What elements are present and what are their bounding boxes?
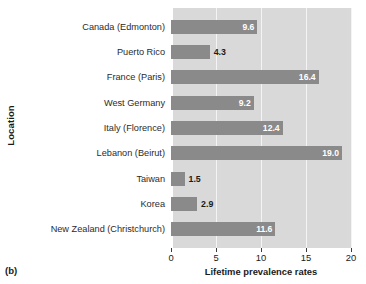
gridline (351, 8, 352, 248)
bar-value-label: 16.4 (299, 72, 319, 82)
category-label: Canada (Edmonton) (18, 14, 170, 39)
bar-value-label: 11.6 (256, 224, 275, 234)
bar-chart-figure: Location Canada (Edmonton)Puerto RicoFra… (0, 0, 366, 284)
bar-row: 1.5 (171, 166, 351, 191)
x-tick-label: 20 (346, 252, 356, 263)
x-tick-label: 5 (213, 252, 218, 263)
category-label: New Zealand (Christchurch) (18, 217, 170, 242)
y-axis-title-text: Location (5, 105, 16, 145)
y-axis-title: Location (0, 0, 20, 250)
category-label: France (Paris) (18, 65, 170, 90)
bar-row: 16.4 (171, 65, 351, 90)
x-axis-title: Lifetime prevalence rates (171, 266, 351, 277)
category-label: Korea (18, 191, 170, 216)
bar-value-label: 9.2 (239, 98, 254, 108)
bar: 12.4 (171, 121, 283, 135)
bar-row: 4.3 (171, 39, 351, 64)
bar-row: 2.9 (171, 191, 351, 216)
bar-value-label: 1.5 (189, 174, 201, 184)
bar (171, 45, 210, 59)
bar-value-label: 12.4 (263, 123, 283, 133)
category-label: West Germany (18, 90, 170, 115)
bar-row: 9.6 (171, 14, 351, 39)
category-label: Lebanon (Beirut) (18, 141, 170, 166)
bar-row: 9.2 (171, 90, 351, 115)
bar (171, 197, 197, 211)
bar-value-label: 2.9 (201, 199, 213, 209)
x-axis: 05101520 (171, 248, 351, 264)
x-tick-label: 10 (256, 252, 266, 263)
bar: 16.4 (171, 70, 319, 84)
category-axis-labels: Canada (Edmonton)Puerto RicoFrance (Pari… (18, 14, 170, 242)
bar-value-label: 19.0 (322, 148, 342, 158)
panel-label: (b) (5, 265, 17, 276)
bar-row: 19.0 (171, 141, 351, 166)
x-tick-label: 0 (168, 252, 173, 263)
bar-row: 11.6 (171, 217, 351, 242)
bar-row: 12.4 (171, 115, 351, 140)
bar: 9.6 (171, 20, 257, 34)
bar-value-label: 4.3 (214, 47, 226, 57)
category-label: Italy (Florence) (18, 115, 170, 140)
category-label: Taiwan (18, 166, 170, 191)
bar: 9.2 (171, 96, 254, 110)
bar (171, 172, 185, 186)
bar-series: 9.64.316.49.212.419.01.52.911.6 (171, 14, 351, 242)
x-tick-label: 15 (301, 252, 311, 263)
plot-area: 9.64.316.49.212.419.01.52.911.6 (171, 8, 351, 248)
bar: 19.0 (171, 146, 342, 160)
bar: 11.6 (171, 222, 275, 236)
bar-value-label: 9.6 (242, 22, 257, 32)
category-label: Puerto Rico (18, 39, 170, 64)
